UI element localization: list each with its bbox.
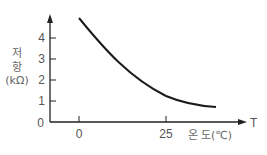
y-tick-0: 0	[37, 116, 44, 130]
x-ticks: 0 25	[76, 116, 173, 141]
x-axis-label: 온 도(℃)	[188, 129, 232, 142]
x-axis-arrow-icon	[238, 119, 247, 125]
y-ticks: 0 1 2 3 4	[37, 31, 56, 130]
y-tick-2: 2	[38, 73, 45, 87]
x-axis-arrow-label: T	[250, 116, 258, 130]
y-tick-3: 3	[38, 52, 45, 66]
x-tick-0: 0	[76, 127, 83, 141]
y-tick-1: 1	[38, 94, 45, 108]
resistance-curve	[79, 18, 216, 107]
y-tick-4: 4	[38, 31, 45, 45]
y-axis-label-3: (kΩ)	[5, 74, 28, 87]
y-axis-label-1: 저	[12, 47, 22, 60]
y-axis-label-2: 항	[12, 61, 22, 74]
y-axis-arrow-icon	[47, 14, 53, 23]
chart: 0 1 2 3 4 0 25 T 온 도(℃) 저 항 (kΩ)	[0, 0, 267, 155]
x-tick-25: 25	[159, 127, 173, 141]
